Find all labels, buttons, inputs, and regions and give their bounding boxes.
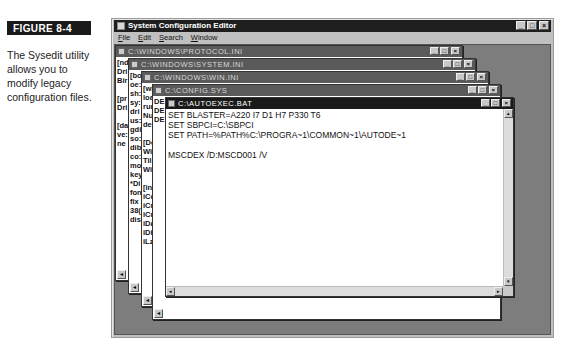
minimize-button[interactable]: _	[468, 86, 477, 94]
minimize-button[interactable]: _	[430, 47, 439, 55]
app-icon[interactable]	[117, 22, 125, 30]
child-title-bar[interactable]: C:\CONFIG.SYS _ □ ×	[153, 85, 500, 96]
maximize-button[interactable]: □	[478, 86, 487, 94]
maximize-button[interactable]: □	[453, 60, 462, 68]
scroll-right-button[interactable]: ▸	[494, 287, 503, 296]
maximize-button[interactable]: □	[466, 73, 475, 81]
close-button[interactable]: ×	[477, 73, 486, 81]
editor-textarea[interactable]: SET BLASTER=A220 I7 D1 H7 P330 T6 SET SB…	[166, 109, 503, 286]
scroll-left-button[interactable]: ◂	[143, 296, 152, 305]
child-title: C:\AUTOEXEC.BAT	[178, 99, 252, 108]
window-title: System Configuration Editor	[128, 21, 236, 30]
minimize-button[interactable]: _	[456, 73, 465, 81]
minimize-button[interactable]: _	[516, 21, 526, 30]
document-icon[interactable]	[168, 100, 175, 107]
maximize-button[interactable]: □	[491, 99, 500, 107]
text-line: MSCDEX /D:MSCD001 /V	[168, 150, 503, 160]
text-line	[168, 140, 503, 150]
child-title: C:\WINDOWS\PROTOCOL.INI	[128, 47, 243, 56]
scroll-left-button[interactable]: ◂	[130, 283, 139, 292]
child-title-bar[interactable]: C:\WINDOWS\WIN.INI _ □ ×	[142, 72, 488, 83]
menu-window[interactable]: Window	[191, 33, 218, 43]
child-title-bar[interactable]: C:\WINDOWS\SYSTEM.INI _ □ ×	[129, 59, 475, 70]
menu-file[interactable]: File	[118, 33, 130, 43]
maximize-button[interactable]: □	[440, 47, 449, 55]
close-button[interactable]: ×	[489, 86, 498, 94]
figure-label: FIGURE 8-4	[7, 21, 91, 35]
vertical-scrollbar[interactable]: ▴ ▾	[503, 109, 513, 286]
scroll-down-button[interactable]: ▾	[504, 277, 513, 286]
minimize-button[interactable]: _	[443, 60, 452, 68]
sysedit-window: System Configuration Editor _ □ × File E…	[111, 18, 554, 338]
child-title: C:\WINDOWS\WIN.INI	[154, 73, 239, 82]
minimize-button[interactable]: _	[481, 99, 490, 107]
document-icon[interactable]	[131, 61, 138, 68]
maximize-button[interactable]: □	[527, 21, 537, 30]
child-title: C:\WINDOWS\SYSTEM.INI	[141, 60, 244, 69]
text-line: SET SBPCI=C:\SBPCI	[168, 120, 503, 130]
mdi-workspace: C:\WINDOWS\PROTOCOL.INI _ □ × [nd Dri Bi…	[114, 44, 551, 335]
figure-caption: The Sysedit utility allows you to modify…	[7, 48, 99, 104]
title-bar[interactable]: System Configuration Editor _ □ ×	[114, 20, 551, 32]
close-button[interactable]: ×	[539, 21, 549, 30]
menu-edit[interactable]: Edit	[138, 33, 151, 43]
scroll-up-button[interactable]: ▴	[504, 109, 513, 118]
text-line: SET BLASTER=A220 I7 D1 H7 P330 T6	[168, 110, 503, 120]
scroll-left-button[interactable]: ◂	[166, 287, 175, 296]
document-icon[interactable]	[118, 48, 125, 55]
document-icon[interactable]	[144, 74, 151, 81]
child-title-bar[interactable]: C:\AUTOEXEC.BAT _ □ ×	[166, 98, 513, 109]
child-title-bar[interactable]: C:\WINDOWS\PROTOCOL.INI _ □ ×	[116, 46, 462, 57]
scroll-left-button[interactable]: ◂	[154, 309, 163, 318]
scroll-left-button[interactable]: ◂	[117, 270, 126, 279]
menu-bar: File Edit Search Window	[114, 33, 551, 43]
document-icon[interactable]	[155, 87, 162, 94]
autoexec-bat-window[interactable]: C:\AUTOEXEC.BAT _ □ × SET BLASTER=A220 I…	[165, 97, 514, 297]
resize-grip-icon[interactable]	[503, 286, 513, 296]
close-button[interactable]: ×	[502, 99, 511, 107]
child-title: C:\CONFIG.SYS	[165, 86, 227, 95]
close-button[interactable]: ×	[464, 60, 473, 68]
menu-search[interactable]: Search	[159, 33, 183, 43]
text-line: SET PATH=%PATH%C:\PROGRA~1\COMMON~1\AUTO…	[168, 130, 503, 140]
horizontal-scrollbar[interactable]: ◂ ▸	[166, 286, 503, 296]
close-button[interactable]: ×	[451, 47, 460, 55]
